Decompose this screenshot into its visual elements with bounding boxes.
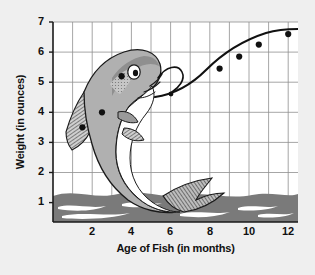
y-tick-label-2: 2 — [34, 165, 48, 177]
x-tick-label-12: 12 — [279, 225, 297, 237]
y-tick-label-1: 1 — [34, 195, 48, 207]
data-point-4 — [217, 66, 223, 72]
data-point-1 — [79, 124, 85, 130]
x-tick-label-6: 6 — [161, 225, 179, 237]
x-axis-title: Age of Fish (in months) — [53, 242, 298, 254]
data-point-2 — [99, 109, 105, 115]
data-point-6 — [256, 42, 262, 48]
y-tick-label-3: 3 — [34, 135, 48, 147]
y-axis-title: Weight (in ounces) — [14, 75, 26, 170]
fish-growth-chart-figure: 7 6 5 4 3 2 1 2 4 6 8 10 12 Weight (in o… — [0, 0, 315, 275]
x-tick-label-8: 8 — [201, 225, 219, 237]
y-tick-label-6: 6 — [34, 45, 48, 57]
x-tick-label-10: 10 — [240, 225, 258, 237]
data-point-3 — [119, 73, 125, 79]
data-point-5 — [236, 54, 242, 60]
x-tick-label-2: 2 — [83, 225, 101, 237]
y-tick-label-7: 7 — [34, 15, 48, 27]
y-tick-label-4: 4 — [34, 105, 48, 117]
y-axis-title-wrap: Weight (in ounces) — [12, 22, 28, 222]
y-tick-label-5: 5 — [34, 75, 48, 87]
fish-pupil — [133, 70, 138, 76]
data-point-7 — [285, 31, 291, 37]
x-tick-label-4: 4 — [122, 225, 140, 237]
